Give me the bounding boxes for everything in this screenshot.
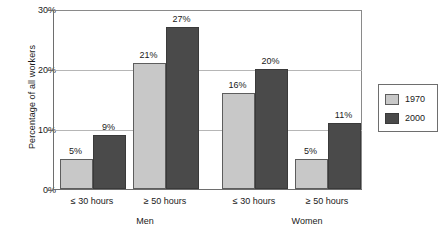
legend-item-1970: 1970 [385,90,437,109]
y-tick-mark [47,190,53,191]
bar-value-label: 9% [86,123,131,132]
x-group-label: Men [95,216,195,226]
bar-1970-0 [60,159,93,189]
legend-swatch-1970 [385,94,399,105]
plot-area [53,10,362,190]
bar-1970-3 [295,159,328,189]
legend: 1970 2000 [378,84,438,132]
bar-value-label: 16% [215,81,260,90]
y-axis-title: Percentage of all workers [27,7,37,187]
bar-value-label: 5% [288,147,333,156]
legend-item-2000: 2000 [385,109,437,128]
bar-value-label: 5% [53,147,98,156]
bar-chart: Percentage of all workers 30%20%10%0% 5%… [0,0,442,247]
gridline [54,70,362,71]
x-category-label: ≥ 50 hours [282,196,372,206]
bar-value-label: 20% [248,57,293,66]
bar-1970-2 [222,93,255,189]
legend-label-1970: 1970 [405,95,425,104]
bar-value-label: 11% [321,111,366,120]
bar-2000-0 [93,135,126,189]
plot-frame-top [54,10,362,11]
bar-2000-3 [328,123,361,189]
legend-label-2000: 2000 [405,114,425,123]
plot-frame-right [361,10,362,189]
x-group-label: Women [257,216,357,226]
bar-value-label: 21% [126,51,171,60]
bar-1970-1 [133,63,166,189]
x-category-label: ≥ 50 hours [120,196,210,206]
bar-value-label: 27% [159,15,204,24]
legend-swatch-2000 [385,113,399,124]
